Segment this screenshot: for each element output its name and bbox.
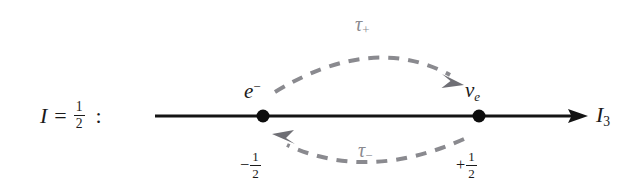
colon-separator: : <box>96 105 102 127</box>
axis-subscript: 3 <box>603 114 610 129</box>
value-fraction-neutrino: 1 2 <box>466 150 477 180</box>
neutrino-state-label: νe <box>465 80 480 103</box>
diagram-canvas <box>0 0 636 194</box>
fraction-numerator: 1 <box>466 150 477 164</box>
equals-sign: = <box>54 105 66 127</box>
electron-symbol: e <box>244 79 253 103</box>
value-sign-negative: − <box>240 157 249 173</box>
tau-plus-arc <box>275 58 450 92</box>
electron-state-label: e− <box>244 80 261 102</box>
tau-plus-subscript: + <box>362 23 369 37</box>
isospin-value-fraction: 1 2 <box>74 100 85 132</box>
state-dot-neutrino <box>473 110 486 123</box>
fraction-numerator: 1 <box>250 150 261 164</box>
value-fraction-electron: 1 2 <box>250 150 261 180</box>
fraction-denominator: 2 <box>466 167 477 181</box>
value-sign-positive: + <box>456 157 465 173</box>
fraction-numerator: 1 <box>74 100 85 114</box>
isospin-diagram: I = 1 2 : e− νe − 1 2 + 1 2 τ+ <box>0 0 636 194</box>
isospin-quantum-number-label: I = 1 2 : <box>40 100 102 132</box>
fraction-denominator: 2 <box>74 117 85 131</box>
fraction-denominator: 2 <box>250 167 261 181</box>
tau-plus-operator-label: τ+ <box>355 14 369 37</box>
tau-plus-arrowhead-icon <box>442 74 465 88</box>
neutrino-flavor-subscript: e <box>474 89 480 104</box>
isospin-symbol: I <box>40 105 47 127</box>
state-dot-electron <box>257 110 270 123</box>
tau-minus-operator-label: τ− <box>358 140 372 163</box>
axis-label-i3: I3 <box>596 104 610 129</box>
isospin-value-neutrino: + 1 2 <box>456 150 477 180</box>
tau-minus-arrowhead-icon <box>272 130 295 144</box>
tau-minus-arc <box>287 139 464 162</box>
neutrino-symbol: ν <box>465 78 474 102</box>
isospin-value-electron: − 1 2 <box>240 150 261 180</box>
tau-minus-subscript: − <box>365 149 372 163</box>
electron-charge-superscript: − <box>253 79 260 94</box>
